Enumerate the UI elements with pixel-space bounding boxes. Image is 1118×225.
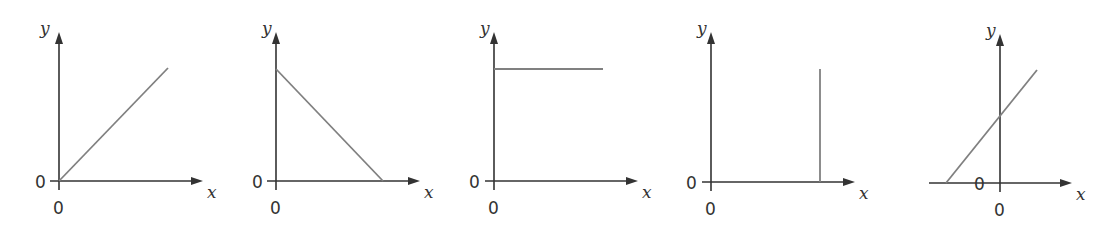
y-zero-label: 0 [35, 172, 46, 192]
plot-line [59, 68, 168, 181]
graph-4: yx00 [686, 18, 869, 219]
x-axis-label: x [424, 182, 434, 202]
x-axis-label: x [1076, 184, 1086, 204]
y-zero-label: 0 [469, 172, 480, 192]
x-axis-label: x [859, 183, 869, 203]
plot-line [946, 70, 1037, 183]
graph-2: yx00 [252, 18, 434, 218]
y-axis-label: y [479, 18, 490, 38]
x-zero-label: 0 [705, 199, 716, 219]
x-axis-arrow-icon [191, 177, 203, 185]
y-axis-arrow-icon [55, 32, 63, 44]
y-axis-arrow-icon [996, 34, 1004, 46]
y-axis-arrow-icon [707, 32, 715, 44]
y-axis-label: y [261, 18, 272, 38]
x-axis-arrow-icon [408, 177, 420, 185]
graph-3: yx00 [469, 18, 652, 218]
graph-5: yx00 [929, 20, 1086, 220]
y-zero-label: 0 [974, 174, 985, 194]
graph-1: yx00 [35, 18, 217, 218]
graphs-canvas: yx00yx00yx00yx00yx00 [0, 0, 1118, 225]
y-axis-label: y [39, 18, 50, 38]
y-axis-label: y [985, 20, 996, 40]
x-axis-label: x [642, 182, 652, 202]
x-zero-label: 0 [994, 200, 1005, 220]
x-axis-label: x [207, 182, 217, 202]
y-axis-label: y [696, 18, 707, 38]
x-zero-label: 0 [488, 198, 499, 218]
x-axis-arrow-icon [626, 177, 638, 185]
x-axis-arrow-icon [1060, 179, 1072, 187]
y-axis-arrow-icon [490, 32, 498, 44]
y-zero-label: 0 [686, 173, 697, 193]
x-zero-label: 0 [53, 198, 64, 218]
x-axis-arrow-icon [843, 178, 855, 186]
y-zero-label: 0 [252, 172, 263, 192]
x-zero-label: 0 [270, 198, 281, 218]
y-axis-arrow-icon [272, 32, 280, 44]
plot-line [276, 69, 383, 181]
